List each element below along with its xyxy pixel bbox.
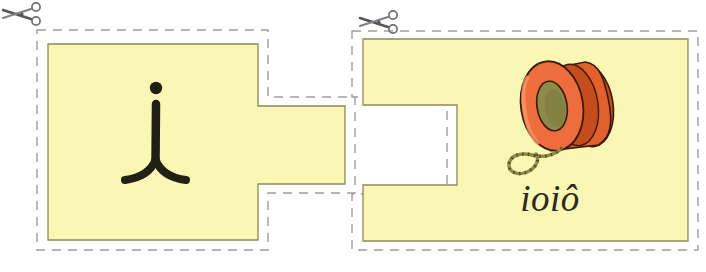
picture-card-word-label: ioiô: [455, 176, 645, 222]
letter-card-body[interactable]: [48, 44, 345, 240]
card-stage: ioiô: [0, 0, 706, 272]
worksheet-canvas: ioiô: [0, 0, 706, 272]
cards-layer: [0, 0, 706, 272]
